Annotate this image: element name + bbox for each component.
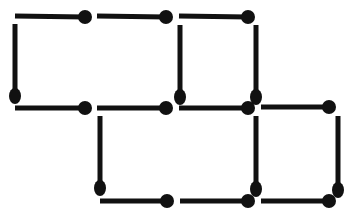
- matchstick-head: [241, 10, 255, 24]
- matchstick-shaft: [179, 16, 248, 17]
- matchstick-figure-canvas: [0, 0, 353, 217]
- matchstick-head: [332, 182, 344, 198]
- matchstick-svg: [0, 0, 353, 217]
- matchstick-shaft: [15, 16, 85, 17]
- matchstick-head: [9, 88, 21, 104]
- matchstick-head: [241, 101, 255, 115]
- matchstick-shaft: [97, 16, 166, 17]
- matchstick-head: [250, 181, 262, 197]
- matchstick-head: [78, 10, 92, 24]
- matchstick-head: [94, 180, 106, 196]
- matchstick-head: [322, 194, 336, 208]
- matchstick-head: [159, 10, 173, 24]
- matchstick-head: [322, 100, 336, 114]
- matchstick-head: [174, 89, 186, 105]
- matchstick-head: [160, 194, 174, 208]
- matchstick-head: [78, 101, 92, 115]
- matchstick-head: [159, 101, 173, 115]
- matchstick-head: [241, 194, 255, 208]
